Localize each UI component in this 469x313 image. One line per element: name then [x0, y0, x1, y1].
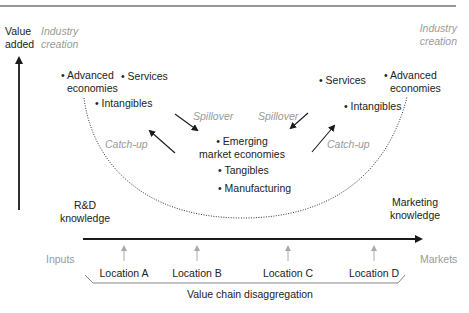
industry-creation-left: Industry creation	[41, 25, 78, 50]
emerging-market-economies: • Emerging market economies	[196, 135, 288, 160]
location-b-label: Location B	[167, 267, 227, 280]
left-advanced-line2: economies	[61, 82, 118, 95]
left-advanced-line1: • Advanced	[61, 69, 118, 82]
center-manufacturing: • Manufacturing	[218, 182, 291, 195]
value-added-line1: Value	[5, 25, 34, 38]
location-c-label: Location C	[258, 267, 318, 280]
industry-creation-left-line2: creation	[41, 38, 78, 51]
inputs-label: Inputs	[46, 253, 75, 266]
left-advanced-economies: • Advanced economies	[61, 69, 118, 94]
marketing-knowledge-line2: knowledge	[383, 209, 447, 222]
center-tangibles: • Tangibles	[218, 164, 269, 177]
value-chain-disaggregation-label: Value chain disaggregation	[170, 288, 330, 301]
emerging-line2: market economies	[196, 148, 288, 161]
left-spillover-label: Spillover	[193, 110, 233, 123]
location-d-label: Location D	[344, 267, 404, 280]
left-services: • Services	[121, 70, 168, 83]
right-services: • Services	[319, 74, 366, 87]
right-advanced-economies: • Advanced economies	[384, 69, 441, 94]
left-catchup-label: Catch-up	[105, 138, 148, 151]
industry-creation-right: Industry creation	[412, 22, 457, 47]
value-added-label: Value added	[5, 25, 34, 50]
right-spillover-label: Spillover	[258, 110, 298, 123]
left-intangibles: • Intangibles	[95, 97, 152, 110]
location-a-label: Location A	[94, 267, 154, 280]
value-added-line2: added	[5, 38, 34, 51]
right-advanced-line1: • Advanced	[384, 69, 441, 82]
industry-creation-right-line2: creation	[412, 35, 457, 48]
rd-knowledge-line2: knowledge	[55, 212, 115, 225]
right-intangibles: • Intangibles	[344, 100, 401, 113]
industry-creation-left-line1: Industry	[41, 25, 78, 38]
markets-label: Markets	[420, 253, 457, 266]
right-catchup-label: Catch-up	[327, 138, 370, 151]
rd-knowledge-label: R&D knowledge	[55, 199, 115, 224]
left-catchup-arrow	[150, 131, 175, 153]
emerging-line1: • Emerging	[196, 135, 288, 148]
marketing-knowledge-line1: Marketing	[383, 196, 447, 209]
marketing-knowledge-label: Marketing knowledge	[383, 196, 447, 221]
right-advanced-line2: economies	[384, 82, 441, 95]
rd-knowledge-line1: R&D	[55, 199, 115, 212]
industry-creation-right-line1: Industry	[412, 22, 457, 35]
